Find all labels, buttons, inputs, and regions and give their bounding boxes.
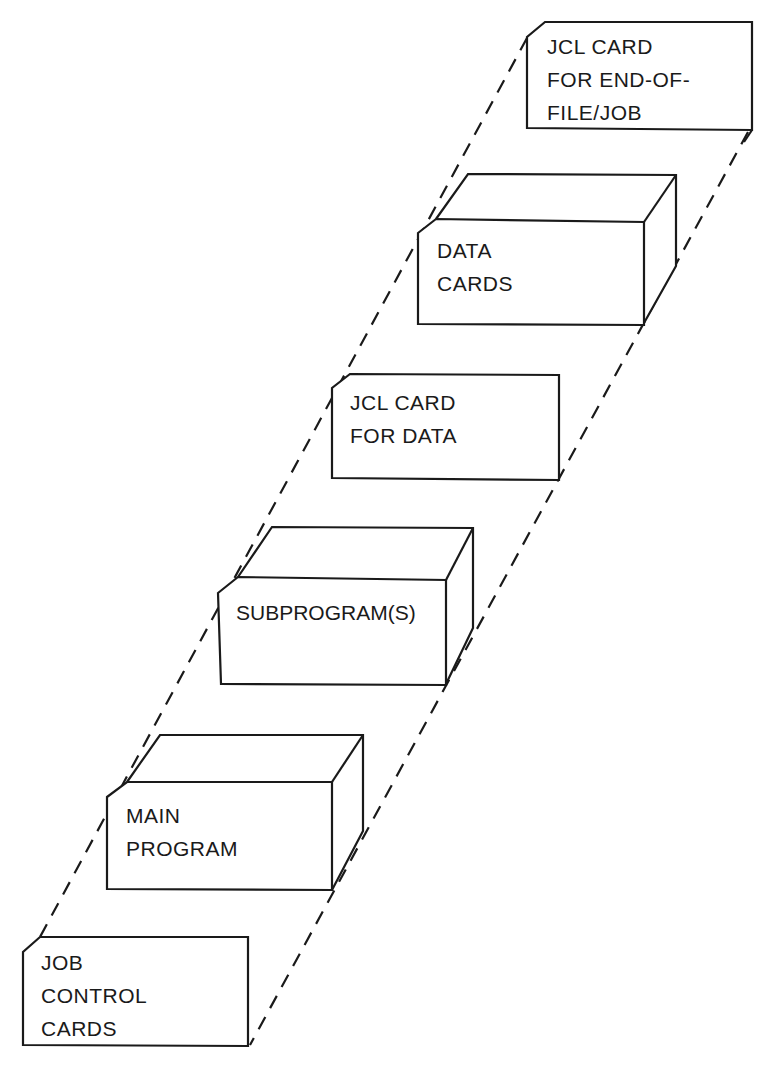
label-line: JOB (41, 946, 147, 979)
subprograms-label: SUBPROGRAM(S) (236, 596, 416, 629)
data-cards-label: DATA CARDS (437, 234, 513, 300)
job-control-label: JOB CONTROL CARDS (41, 946, 147, 1045)
label-line: CARDS (437, 267, 513, 300)
label-line: PROGRAM (126, 832, 238, 865)
label-line: JCL CARD (547, 30, 690, 63)
label-line: FOR END-OF- (547, 63, 690, 96)
jcl-end-label: JCL CARD FOR END-OF- FILE/JOB (547, 30, 690, 129)
label-line: DATA (437, 234, 513, 267)
label-line: CARDS (41, 1012, 147, 1045)
jcl-data-label: JCL CARD FOR DATA (350, 386, 457, 452)
label-line: FOR DATA (350, 419, 457, 452)
label-line: FILE/JOB (547, 96, 690, 129)
main-program-label: MAIN PROGRAM (126, 799, 238, 865)
label-line: SUBPROGRAM(S) (236, 596, 416, 629)
label-line: CONTROL (41, 979, 147, 1012)
job-deck-diagram (0, 0, 764, 1072)
label-line: JCL CARD (350, 386, 457, 419)
label-line: MAIN (126, 799, 238, 832)
